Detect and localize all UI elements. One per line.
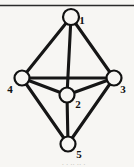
graph-node-label-2: 2	[75, 98, 81, 110]
graph-node-1[interactable]: 1	[63, 9, 85, 26]
graph-edges-layer	[22, 17, 114, 144]
graph-node-5[interactable]: 5	[61, 137, 83, 161]
figure-container: 12345 . . .. .. .	[0, 0, 134, 167]
graph-node-circle-3[interactable]	[107, 71, 122, 86]
graph-edge-1-4	[22, 17, 71, 78]
graph-node-label-4: 4	[7, 83, 13, 95]
graph-edge-1-3	[71, 17, 114, 78]
graph-node-3[interactable]: 3	[107, 71, 127, 96]
graph-node-circle-1[interactable]	[63, 9, 79, 25]
graph-node-4[interactable]: 4	[7, 71, 29, 96]
graph-node-label-1: 1	[79, 14, 85, 26]
graph-node-circle-4[interactable]	[15, 71, 30, 86]
graph-diagram: 12345 . . .. .. .	[0, 0, 134, 167]
graph-edge-1-2	[67, 17, 71, 95]
graph-node-label-3: 3	[120, 83, 126, 95]
caption-fragment-text: . . .. .. .	[62, 159, 86, 167]
graph-node-circle-2[interactable]	[60, 88, 75, 103]
caption-fragment-group: . . .. .. .	[62, 159, 86, 167]
graph-node-circle-5[interactable]	[61, 137, 76, 152]
